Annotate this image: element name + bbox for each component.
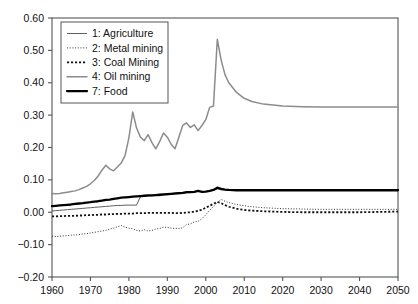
y-tick-label: 0.30 <box>24 109 45 121</box>
x-tick-label: 1960 <box>40 284 64 296</box>
x-tick-label: 1990 <box>156 284 180 296</box>
legend-label-4: 4: Oil mining <box>92 70 151 82</box>
legend-label-2: 2: Metal mining <box>92 42 163 54</box>
line-chart: −0.20−0.100.000.100.200.300.400.500.60 1… <box>0 0 418 304</box>
series-line-3 <box>52 202 398 217</box>
x-tick-label: 2040 <box>348 284 372 296</box>
y-tick-label: 0.10 <box>24 173 45 185</box>
legend-label-7: 7: Food <box>92 85 128 97</box>
x-tick-label: 2020 <box>271 284 295 296</box>
y-tick-label: 0.00 <box>24 206 45 218</box>
y-tick-label: 0.40 <box>24 76 45 88</box>
x-tick-label: 2000 <box>194 284 218 296</box>
x-tick-label: 2010 <box>233 284 257 296</box>
x-tick-label: 2050 <box>386 284 410 296</box>
legend-label-1: 1: Agriculture <box>92 27 153 39</box>
y-tick-label: 0.50 <box>24 44 45 56</box>
x-tick-label: 1980 <box>117 284 141 296</box>
y-tick-label: 0.20 <box>24 141 45 153</box>
chart-legend: 1: Agriculture2: Metal mining3: Coal Min… <box>61 22 168 103</box>
series-line-7 <box>52 188 398 206</box>
y-tick-label: −0.20 <box>17 271 44 283</box>
y-tick-label: 0.60 <box>24 12 45 24</box>
legend-label-3: 3: Coal Mining <box>92 56 159 68</box>
x-tick-label: 2030 <box>309 284 333 296</box>
x-tick-label: 1970 <box>79 284 103 296</box>
series-line-2 <box>52 199 398 236</box>
x-axis-ticks: 1960197019801990200020102020203020402050 <box>40 277 410 296</box>
y-tick-label: −0.10 <box>17 238 44 250</box>
chart-figure: −0.20−0.100.000.100.200.300.400.500.60 1… <box>0 0 418 304</box>
y-axis-ticks: −0.20−0.100.000.100.200.300.400.500.60 <box>17 12 52 283</box>
